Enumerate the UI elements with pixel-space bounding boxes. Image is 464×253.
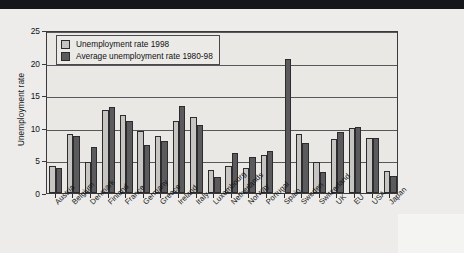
y-tick-label: 0 [14,189,40,199]
bar [302,143,308,193]
y-tick-label: 25 [14,26,40,36]
legend-label: Unemployment rate 1998 [76,39,169,49]
y-tick-label: 5 [14,156,40,166]
bar [285,59,291,193]
scan-corner-fold [398,214,464,253]
chart-legend: Unemployment rate 1998 Average unemploym… [56,35,220,65]
x-axis: AustriaBelgiumDenmarkFinlandFranceGerman… [46,194,398,253]
bar-group [258,32,276,193]
bar [179,106,185,193]
bar-chart-figure: Unemployment rate 0510152025 AustriaBelg… [0,9,464,253]
bar-group [329,32,347,193]
legend-swatch-light [61,40,70,49]
bar-group [293,32,311,193]
bar [373,138,379,193]
y-tick-mark [42,129,46,130]
bar [56,168,62,193]
y-tick-mark [42,161,46,162]
bar-group [381,32,399,193]
bar-group [346,32,364,193]
y-tick-mark [42,31,46,32]
legend-label: Average unemployment rate 1980-98 [76,51,213,61]
legend-swatch-dark [61,52,70,61]
legend-item: Average unemployment rate 1980-98 [61,51,213,61]
y-tick-label: 20 [14,59,40,69]
bar [355,127,361,193]
scan-top-band [0,0,464,9]
y-tick-label: 10 [14,124,40,134]
bar [126,121,132,193]
bar-group [276,32,294,193]
bar [144,145,150,193]
bar-group [223,32,241,193]
bar [197,125,203,193]
y-tick-mark [42,64,46,65]
bar [73,136,79,193]
scanned-page: Unemployment rate 0510152025 AustriaBelg… [0,0,464,253]
y-tick-mark [42,96,46,97]
legend-item: Unemployment rate 1998 [61,39,213,49]
bar-group [311,32,329,193]
bar-group [364,32,382,193]
y-tick-label: 15 [14,91,40,101]
bar-group [241,32,259,193]
